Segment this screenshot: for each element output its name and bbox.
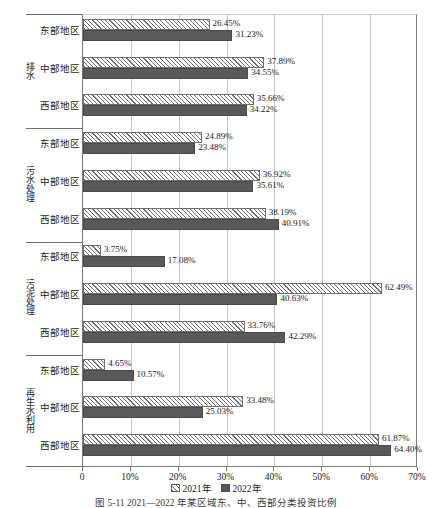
bar-value-label-2021: 24.89% bbox=[205, 131, 233, 142]
bar-row: 东部地区3.75%17.08% bbox=[0, 242, 432, 276]
bar-group: 污泥处理东部地区3.75%17.08%中部地区62.49%40.63%西部地区3… bbox=[0, 241, 432, 354]
bar-value-label-2021: 3.75% bbox=[104, 244, 127, 255]
bar-2021 bbox=[83, 19, 210, 30]
category-label: 西部地区 bbox=[34, 100, 80, 113]
bar-2022 bbox=[83, 143, 195, 154]
legend: 2021年 2022年 bbox=[0, 481, 432, 495]
bar-value-label-2022: 35.61% bbox=[256, 180, 284, 191]
bar-row: 东部地区26.45%31.23% bbox=[0, 16, 432, 50]
legend-item-2021: 2021年 bbox=[171, 481, 212, 495]
bar-value-label-2021: 4.65% bbox=[108, 358, 131, 369]
category-label: 中部地区 bbox=[34, 176, 80, 189]
bar-2022 bbox=[83, 181, 253, 192]
legend-swatch-2021 bbox=[171, 484, 180, 492]
category-label: 中部地区 bbox=[34, 402, 80, 415]
bar-2022 bbox=[83, 105, 247, 116]
bar-value-label-2022: 31.23% bbox=[235, 29, 263, 40]
category-label: 西部地区 bbox=[34, 327, 80, 340]
bar-2021 bbox=[83, 245, 101, 256]
bar-value-label-2022: 42.29% bbox=[288, 331, 316, 342]
category-label: 西部地区 bbox=[34, 440, 80, 453]
bar-row: 东部地区4.65%10.57% bbox=[0, 356, 432, 390]
bar-value-label-2022: 10.57% bbox=[137, 369, 165, 380]
bar-row: 西部地区61.87%64.40% bbox=[0, 431, 432, 465]
bar-row: 中部地区36.92%35.61% bbox=[0, 167, 432, 201]
bar-value-label-2021: 62.49% bbox=[385, 282, 413, 293]
bar-2022 bbox=[83, 68, 248, 79]
bar-value-label-2022: 34.55% bbox=[251, 67, 279, 78]
bar-2022 bbox=[83, 370, 134, 381]
bar-2022 bbox=[83, 219, 279, 230]
bar-2021 bbox=[83, 283, 382, 294]
category-label: 东部地区 bbox=[34, 365, 80, 378]
legend-item-2022: 2022年 bbox=[221, 481, 262, 495]
bar-value-label-2022: 40.91% bbox=[282, 218, 310, 229]
bar-value-label-2022: 40.63% bbox=[280, 293, 308, 304]
category-label: 中部地区 bbox=[34, 289, 80, 302]
bar-value-label-2022: 17.08% bbox=[168, 255, 196, 266]
bar-2021 bbox=[83, 57, 264, 68]
bar-group: 排水东部地区26.45%31.23%中部地区37.89%34.55%西部地区35… bbox=[0, 14, 432, 127]
bar-group: 污水处理东部地区24.89%23.48%中部地区36.92%35.61%西部地区… bbox=[0, 127, 432, 240]
bar-2021 bbox=[83, 321, 245, 332]
bar-row: 东部地区24.89%23.48% bbox=[0, 129, 432, 163]
bar-2022 bbox=[83, 294, 277, 305]
bar-2021 bbox=[83, 359, 105, 370]
bar-2022 bbox=[83, 445, 391, 456]
legend-swatch-2022 bbox=[221, 484, 230, 492]
bar-2021 bbox=[83, 170, 260, 181]
category-label: 东部地区 bbox=[34, 25, 80, 38]
bar-2022 bbox=[83, 332, 285, 343]
category-label: 东部地区 bbox=[34, 251, 80, 264]
category-label: 西部地区 bbox=[34, 214, 80, 227]
category-label: 东部地区 bbox=[34, 138, 80, 151]
bar-value-label-2021: 35.66% bbox=[257, 93, 285, 104]
bar-row: 西部地区35.66%34.22% bbox=[0, 91, 432, 125]
legend-label-2022: 2022年 bbox=[233, 481, 262, 495]
category-label: 中部地区 bbox=[34, 63, 80, 76]
bar-value-label-2021: 33.76% bbox=[248, 320, 276, 331]
bar-value-label-2021: 36.92% bbox=[263, 169, 291, 180]
bar-2022 bbox=[83, 407, 203, 418]
figure-caption: 图 5-11 2021—2022 年某区域东、中、西部分类投资比例 bbox=[0, 497, 432, 508]
bar-2021 bbox=[83, 208, 266, 219]
bar-2021 bbox=[83, 94, 254, 105]
bar-value-label-2022: 25.03% bbox=[206, 406, 234, 417]
figure-chart: 排水东部地区26.45%31.23%中部地区37.89%34.55%西部地区35… bbox=[0, 0, 432, 508]
bar-2022 bbox=[83, 256, 165, 267]
bar-value-label-2022: 64.40% bbox=[394, 444, 422, 455]
bar-value-label-2022: 23.48% bbox=[198, 142, 226, 153]
bar-value-label-2021: 26.45% bbox=[213, 18, 241, 29]
bar-2021 bbox=[83, 132, 202, 143]
bar-row: 中部地区62.49%40.63% bbox=[0, 280, 432, 314]
bar-2021 bbox=[83, 434, 379, 445]
bar-value-label-2022: 34.22% bbox=[250, 104, 278, 115]
bar-value-label-2021: 38.19% bbox=[269, 207, 297, 218]
legend-label-2021: 2021年 bbox=[183, 481, 212, 495]
bar-2022 bbox=[83, 30, 232, 41]
bar-row: 中部地区37.89%34.55% bbox=[0, 54, 432, 88]
bar-value-label-2021: 37.89% bbox=[267, 56, 295, 67]
bar-row: 西部地区33.76%42.29% bbox=[0, 318, 432, 352]
bar-group: 再生水利用东部地区4.65%10.57%中部地区33.48%25.03%西部地区… bbox=[0, 354, 432, 467]
bar-value-label-2021: 61.87% bbox=[382, 433, 410, 444]
bar-row: 中部地区33.48%25.03% bbox=[0, 393, 432, 427]
bar-row: 西部地区38.19%40.91% bbox=[0, 205, 432, 239]
bar-value-label-2021: 33.48% bbox=[246, 395, 274, 406]
